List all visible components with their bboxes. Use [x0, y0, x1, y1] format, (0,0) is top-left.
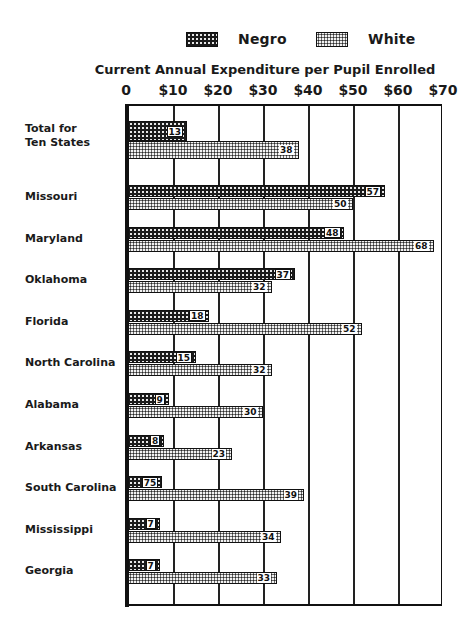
bar-white: 30: [128, 406, 263, 418]
bar-white: 68: [128, 240, 434, 252]
bar-white: 32: [128, 364, 272, 376]
category-label: Oklahoma: [25, 273, 87, 287]
bar-negro: 7: [128, 559, 160, 571]
bar-negro: 37: [128, 268, 295, 280]
value-label: 33: [257, 573, 272, 583]
value-label: 34: [261, 532, 276, 542]
bar-white: 39: [128, 489, 304, 501]
value-label: 75: [142, 477, 159, 488]
bar-negro: 57: [128, 185, 385, 197]
value-label: 68: [414, 241, 429, 251]
bar-white: 50: [128, 198, 353, 210]
bar-negro: 15: [128, 351, 196, 363]
value-label: 7: [146, 518, 156, 529]
value-label: 18: [189, 310, 206, 321]
bar-negro: 7: [128, 518, 160, 530]
white-swatch-icon: [316, 32, 348, 47]
value-label: 32: [252, 282, 267, 292]
legend-item-negro: Negro: [186, 31, 287, 47]
category-label: South Carolina: [25, 481, 117, 495]
legend: Negro White: [0, 31, 470, 51]
value-label: 9: [155, 394, 165, 405]
x-tick-label: $70: [428, 82, 457, 98]
x-tick-label: 0: [121, 82, 131, 98]
value-label: 38: [279, 145, 294, 155]
legend-item-white: White: [316, 31, 415, 47]
value-label: 7: [146, 560, 156, 571]
value-label: 50: [333, 199, 348, 209]
legend-label-negro: Negro: [238, 31, 287, 47]
bar-negro: 13: [128, 121, 187, 141]
value-label: 39: [284, 490, 299, 500]
category-label: Total forTen States: [25, 122, 90, 150]
x-tick-label: $50: [338, 82, 367, 98]
category-label: Maryland: [25, 232, 83, 246]
value-label: 15: [176, 352, 193, 363]
bar-white: 33: [128, 572, 277, 584]
negro-swatch-icon: [186, 32, 218, 47]
bar-negro: 75: [128, 476, 162, 488]
x-tick-label: $60: [383, 82, 412, 98]
value-label: 52: [342, 324, 357, 334]
value-label: 48: [324, 227, 341, 238]
category-label: Georgia: [25, 564, 74, 578]
axis-title: Current Annual Expenditure per Pupil Enr…: [0, 62, 470, 77]
category-label: Alabama: [25, 398, 79, 412]
bar-negro: 48: [128, 227, 344, 239]
bar-white: 32: [128, 281, 272, 293]
category-label: North Carolina: [25, 356, 115, 370]
bar-white: 34: [128, 531, 281, 543]
category-label: Missouri: [25, 190, 77, 204]
bar-white: 23: [128, 448, 232, 460]
x-tick-label: $10: [158, 82, 187, 98]
bar-negro: 18: [128, 310, 209, 322]
value-label: 32: [252, 365, 267, 375]
category-label: Arkansas: [25, 440, 82, 454]
bar-negro: 9: [128, 393, 169, 405]
category-label: Mississippi: [25, 523, 93, 537]
bar-negro: 8: [128, 435, 164, 447]
value-label: 23: [212, 449, 227, 459]
bar-white: 38: [128, 141, 299, 159]
x-tick-label: $30: [248, 82, 277, 98]
value-label: 37: [275, 269, 292, 280]
x-tick-label: $20: [203, 82, 232, 98]
value-label: 57: [365, 186, 382, 197]
value-label: 8: [150, 435, 160, 446]
category-label: Florida: [25, 315, 68, 329]
bar-white: 52: [128, 323, 362, 335]
value-label: 30: [243, 407, 258, 417]
value-label: 13: [167, 126, 184, 137]
x-tick-label: $40: [293, 82, 322, 98]
legend-label-white: White: [368, 31, 415, 47]
